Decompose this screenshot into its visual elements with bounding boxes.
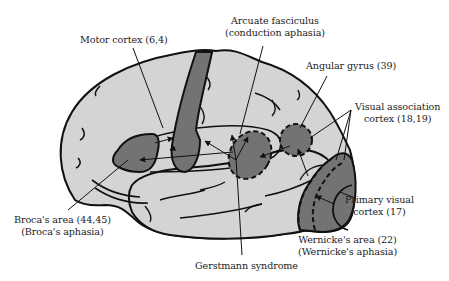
label-visual-association-line2: cortex (18,19) [355,113,440,125]
label-wernickes-line2: (Wernicke's aphasia) [298,246,397,258]
label-angular-gyrus-text: Angular gyrus (39) [306,60,396,72]
label-visual-association-line1: Visual association [355,101,440,113]
label-brocas-area: Broca's area (44,45) (Broca's aphasia) [14,214,111,238]
label-brocas-line2: (Broca's aphasia) [14,226,111,238]
label-motor-cortex: Motor cortex (6,4) [80,34,168,46]
label-motor-cortex-text: Motor cortex (6,4) [80,34,168,46]
label-brocas-line1: Broca's area (44,45) [14,214,111,226]
angular-gyrus-region [280,124,312,156]
brain-diagram: Motor cortex (6,4) Arcuate fasciculus (c… [0,0,449,281]
label-gerstmann-syndrome: Gerstmann syndrome [195,260,298,272]
label-wernickes-area: Wernicke's area (22) (Wernicke's aphasia… [298,234,397,258]
label-angular-gyrus: Angular gyrus (39) [306,60,396,72]
label-gerstmann-text: Gerstmann syndrome [195,260,298,272]
label-visual-association: Visual association cortex (18,19) [355,101,440,125]
label-arcuate-line1: Arcuate fasciculus [225,15,325,27]
label-arcuate-fasciculus: Arcuate fasciculus (conduction aphasia) [225,15,325,39]
label-primary-visual: Primary visual cortex (17) [345,194,414,218]
label-arcuate-line2: (conduction aphasia) [225,27,325,39]
label-primary-visual-line2: cortex (17) [345,206,414,218]
label-wernickes-line1: Wernicke's area (22) [298,234,397,246]
label-primary-visual-line1: Primary visual [345,194,414,206]
